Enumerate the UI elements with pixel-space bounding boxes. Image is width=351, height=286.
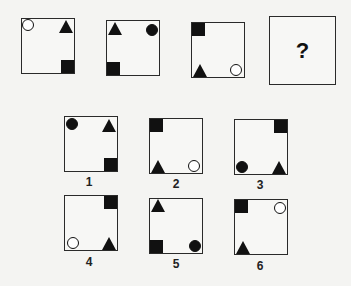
open-circle-icon [22, 19, 34, 31]
open-circle-icon [230, 64, 242, 76]
open-circle-icon [274, 202, 286, 214]
option-label-1: 1 [79, 175, 99, 189]
option-box-2[interactable] [149, 118, 203, 174]
square-icon [150, 240, 163, 253]
sequence-box-3 [191, 22, 245, 78]
square-icon [61, 60, 74, 73]
square-icon [104, 196, 117, 209]
triangle-icon [59, 20, 73, 33]
sequence-box-2 [106, 20, 160, 76]
filled-circle-icon [66, 118, 78, 130]
open-circle-icon [188, 160, 200, 172]
square-icon [192, 23, 205, 36]
open-circle-icon [67, 237, 79, 249]
triangle-icon [272, 161, 286, 174]
filled-circle-icon [236, 161, 248, 173]
triangle-icon [108, 22, 122, 35]
triangle-icon [151, 199, 165, 212]
option-box-1[interactable] [64, 116, 118, 172]
option-box-3[interactable] [234, 119, 288, 175]
option-box-4[interactable] [64, 195, 118, 251]
square-icon [150, 119, 163, 132]
square-icon [274, 120, 287, 133]
triangle-icon [151, 160, 165, 173]
triangle-icon [102, 237, 116, 250]
square-icon [107, 62, 120, 75]
triangle-icon [193, 64, 207, 77]
triangle-icon [236, 241, 250, 254]
option-label-3: 3 [250, 178, 270, 192]
filled-circle-icon [146, 24, 158, 36]
answer-placeholder-box: ? [269, 16, 336, 85]
filled-circle-icon [189, 240, 201, 252]
option-label-5: 5 [166, 257, 186, 271]
option-label-4: 4 [79, 255, 99, 269]
option-label-2: 2 [166, 177, 186, 191]
question-mark: ? [270, 38, 335, 64]
triangle-icon [102, 119, 116, 132]
square-icon [104, 158, 117, 171]
option-label-6: 6 [250, 259, 270, 273]
square-icon [235, 200, 248, 213]
option-box-5[interactable] [149, 198, 203, 254]
option-box-6[interactable] [234, 199, 288, 255]
sequence-box-1 [21, 18, 75, 74]
